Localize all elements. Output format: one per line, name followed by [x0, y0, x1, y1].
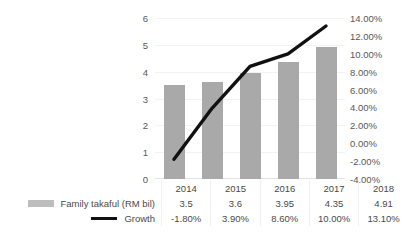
right-axis-tick-9: 14.00%: [350, 13, 382, 24]
line-swatch-icon: [91, 217, 117, 220]
legend-item-family-takaful[interactable]: Family takaful (RM bil): [8, 196, 162, 211]
header-cell-2018: 2018: [359, 180, 408, 196]
right-axis-tick-4: 4.00%: [350, 102, 377, 113]
right-axis-tick-7: 10.00%: [350, 48, 382, 59]
legend-item-growth[interactable]: Growth: [8, 211, 162, 226]
cell-growth-2018: 13.10%: [359, 211, 408, 226]
cell-growth-2017: 10.00%: [309, 211, 358, 226]
growth-polyline: [174, 26, 326, 159]
bar-swatch-icon: [28, 200, 54, 207]
cell-growth-2014: -1.80%: [162, 211, 211, 226]
cell-takaful-2015: 3.6: [211, 196, 260, 211]
cell-takaful-2018: 4.91: [359, 196, 408, 211]
right-axis-tick-2: 0.00%: [350, 138, 377, 149]
right-percent-axis: -4.00% -2.00% 0.00% 2.00% 4.00% 6.00% 8.…: [350, 18, 414, 179]
left-axis-tick-3: 3: [143, 93, 148, 104]
cell-growth-2015: 3.90%: [211, 211, 260, 226]
left-axis-tick-2: 2: [143, 120, 148, 131]
combo-chart: 0 1 2 3 4 5 6 -4.00% -2.00% 0.00% 2.00% …: [0, 0, 416, 246]
left-axis-tick-5: 5: [143, 39, 148, 50]
table-header-row: 2014 2015 2016 2017 2018: [8, 180, 408, 196]
cell-takaful-2014: 3.5: [162, 196, 211, 211]
cell-takaful-2016: 3.95: [260, 196, 309, 211]
header-label-cell: [8, 180, 162, 196]
right-axis-tick-3: 2.00%: [350, 120, 377, 131]
right-axis-tick-1: -2.00%: [350, 156, 380, 167]
plot-area: [155, 18, 345, 179]
line-series-growth: [155, 18, 345, 179]
header-cell-2014: 2014: [162, 180, 211, 196]
data-table: 2014 2015 2016 2017 2018 Family takaful …: [8, 180, 408, 226]
legend-label-growth: Growth: [124, 213, 155, 224]
right-axis-tick-5: 6.00%: [350, 84, 377, 95]
left-axis-tick-6: 6: [143, 13, 148, 24]
right-axis-tick-8: 12.00%: [350, 30, 382, 41]
table-row: Family takaful (RM bil) 3.5 3.6 3.95 4.3…: [8, 196, 408, 211]
header-cell-2015: 2015: [211, 180, 260, 196]
header-cell-2017: 2017: [309, 180, 358, 196]
left-axis-tick-1: 1: [143, 147, 148, 158]
legend-label-family-takaful: Family takaful (RM bil): [61, 198, 156, 209]
cell-growth-2016: 8.60%: [260, 211, 309, 226]
right-axis-tick-6: 8.00%: [350, 66, 377, 77]
table-row: Growth -1.80% 3.90% 8.60% 10.00% 13.10%: [8, 211, 408, 226]
legend-and-data-table: 2014 2015 2016 2017 2018 Family takaful …: [8, 180, 408, 226]
cell-takaful-2017: 4.35: [309, 196, 358, 211]
left-axis-tick-4: 4: [143, 66, 148, 77]
header-cell-2016: 2016: [260, 180, 309, 196]
left-value-axis: 0 1 2 3 4 5 6: [126, 18, 148, 179]
